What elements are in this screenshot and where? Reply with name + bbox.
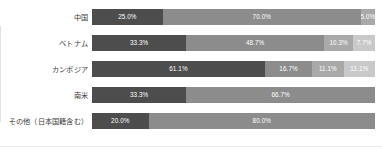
bar-track: 20.0%80.0% bbox=[92, 113, 375, 129]
bar-segment: 20.0% bbox=[92, 113, 149, 129]
bar-track: 33.3%48.7%10.3%7.7% bbox=[92, 35, 375, 51]
bar-segment: 7.7% bbox=[353, 35, 375, 51]
bar-segment: 80.0% bbox=[149, 113, 375, 129]
bar-row-label: カンボジア bbox=[0, 65, 92, 74]
bar-segment: 33.3% bbox=[92, 87, 186, 103]
bar-segment: 16.7% bbox=[265, 61, 312, 77]
bar-segment: 11.1% bbox=[312, 61, 343, 77]
bar-track: 61.1%16.7%11.1%11.1% bbox=[92, 61, 375, 77]
bar-segment-value: 10.3% bbox=[329, 39, 347, 47]
bar-segment: 10.3% bbox=[324, 35, 353, 51]
bar-segment-value: 61.1% bbox=[169, 65, 187, 73]
bar-segment: 5.0% bbox=[361, 9, 375, 25]
bar-segment-value: 20.0% bbox=[111, 117, 129, 125]
bar-segment-value: 66.7% bbox=[271, 91, 289, 99]
bar-row-label: 中国 bbox=[0, 13, 92, 22]
bar-segment-value: 16.7% bbox=[279, 65, 297, 73]
page-edge-line-bottom bbox=[0, 146, 382, 147]
bar-segment-value: 70.0% bbox=[253, 13, 271, 21]
bar-segment: 11.1% bbox=[344, 61, 375, 77]
bar-row-label: ベトナム bbox=[0, 39, 92, 48]
bar-segment-value: 5.0% bbox=[361, 13, 375, 21]
bar-segment-value: 11.1% bbox=[319, 65, 337, 73]
bar-row: ベトナム33.3%48.7%10.3%7.7% bbox=[0, 34, 382, 52]
bar-row-label: その他（日本国籍含む） bbox=[0, 117, 92, 126]
bar-row: カンボジア61.1%16.7%11.1%11.1% bbox=[0, 60, 382, 78]
bar-segment-value: 80.0% bbox=[253, 117, 271, 125]
bar-segment-value: 33.3% bbox=[130, 39, 148, 47]
bar-segment-value: 25.0% bbox=[118, 13, 136, 21]
bar-segment-value: 11.1% bbox=[350, 65, 368, 73]
chart-rows: 中国25.0%70.0%5.0%ベトナム33.3%48.7%10.3%7.7%カ… bbox=[0, 8, 382, 138]
bar-segment: 66.7% bbox=[186, 87, 375, 103]
bar-segment-value: 33.3% bbox=[130, 91, 148, 99]
bar-segment: 70.0% bbox=[163, 9, 361, 25]
bar-row: その他（日本国籍含む）20.0%80.0% bbox=[0, 112, 382, 130]
bar-segment: 33.3% bbox=[92, 35, 186, 51]
bar-row: 南米33.3%66.7% bbox=[0, 86, 382, 104]
bar-segment: 61.1% bbox=[92, 61, 265, 77]
bar-track: 25.0%70.0%5.0% bbox=[92, 9, 375, 25]
bar-segment-value: 48.7% bbox=[246, 39, 264, 47]
bar-segment-value: 7.7% bbox=[357, 39, 372, 47]
bar-track: 33.3%66.7% bbox=[92, 87, 375, 103]
bar-segment: 48.7% bbox=[186, 35, 324, 51]
stacked-bar-chart: 中国25.0%70.0%5.0%ベトナム33.3%48.7%10.3%7.7%カ… bbox=[0, 0, 382, 150]
bar-segment: 25.0% bbox=[92, 9, 163, 25]
bar-row: 中国25.0%70.0%5.0% bbox=[0, 8, 382, 26]
bar-row-label: 南米 bbox=[0, 91, 92, 100]
